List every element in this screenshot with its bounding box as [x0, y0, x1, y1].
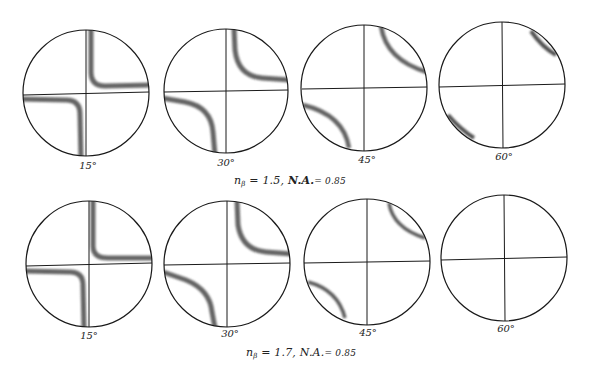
panel-row1-60deg	[439, 22, 565, 148]
angle-label: 60°	[495, 151, 513, 162]
angle-label: 45°	[359, 327, 377, 338]
panel-row1-45deg	[301, 25, 427, 151]
refractive-index-subscript: β	[253, 352, 257, 360]
angle-label: 30°	[217, 157, 235, 168]
panel-row1-15deg	[20, 28, 152, 158]
panel-row2-30deg	[163, 201, 292, 328]
crosshair-vertical	[504, 195, 505, 321]
na-label: N.A.	[288, 174, 314, 187]
refractive-index-value: = 1.7,	[261, 346, 296, 359]
panel-row2-45deg	[304, 199, 430, 325]
angle-label: 15°	[79, 160, 97, 171]
panel-row2-15deg	[24, 200, 154, 328]
caption-row2: nβ = 1.7, N.A.= 0.85	[246, 346, 356, 360]
na-value: = 0.85	[324, 348, 356, 358]
caption-row1: nβ = 1.5, N.A.= 0.85	[234, 174, 346, 188]
refractive-index-subscript: β	[241, 180, 245, 188]
angle-label: 60°	[497, 323, 515, 334]
angle-label: 15°	[80, 330, 98, 341]
na-value: = 0.85	[314, 176, 346, 186]
panel-row1-30deg	[162, 28, 290, 155]
na-label: N.A.	[300, 346, 325, 359]
refractive-index-value: = 1.5,	[249, 174, 284, 187]
panel-row2-60deg	[441, 195, 567, 321]
angle-label: 30°	[221, 328, 239, 339]
crosshair-vertical	[502, 22, 503, 148]
angle-label: 45°	[358, 154, 376, 165]
